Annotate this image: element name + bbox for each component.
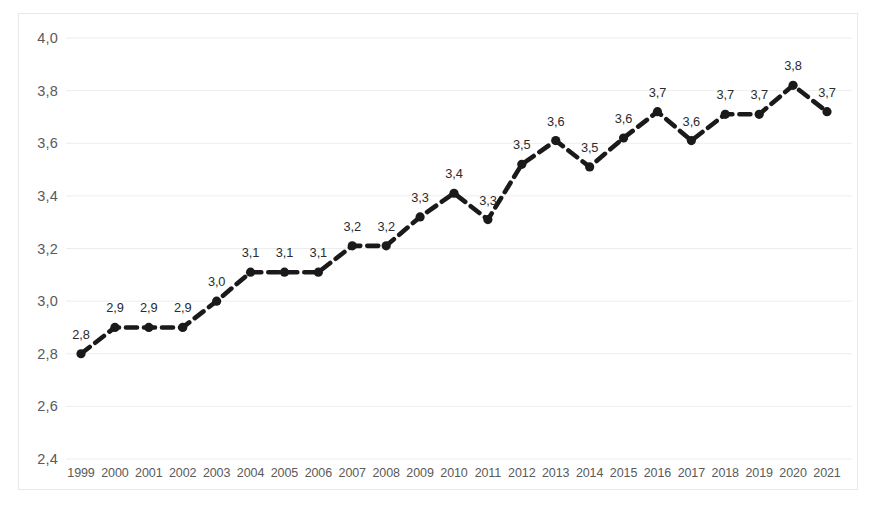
- data-point-marker[interactable]: [415, 212, 424, 221]
- data-point-marker[interactable]: [110, 323, 119, 332]
- data-point-label: 3,2: [377, 219, 395, 234]
- x-tick-label: 2006: [305, 466, 332, 480]
- x-tick-label: 2015: [610, 466, 637, 480]
- data-point-marker[interactable]: [721, 110, 730, 119]
- x-tick-label: 2013: [542, 466, 569, 480]
- data-point-marker[interactable]: [822, 107, 831, 116]
- y-tick-label: 2,4: [14, 451, 58, 467]
- x-tick-label: 2014: [576, 466, 603, 480]
- data-point-marker[interactable]: [314, 268, 323, 277]
- data-point-marker[interactable]: [212, 297, 221, 306]
- x-tick-label: 2003: [203, 466, 230, 480]
- x-tick-label: 2011: [475, 466, 501, 480]
- x-tick-label: 2018: [712, 466, 739, 480]
- x-tick-label: 2008: [372, 466, 399, 480]
- data-point-marker[interactable]: [517, 160, 526, 169]
- x-tick-label: 2001: [135, 466, 162, 480]
- data-point-label: 3,2: [344, 219, 362, 234]
- data-point-label: 3,6: [615, 111, 633, 126]
- data-point-label: 3,4: [445, 166, 463, 181]
- y-tick-label: 3,8: [14, 83, 58, 99]
- data-point-label: 3,7: [818, 85, 836, 100]
- data-point-label: 3,7: [649, 85, 667, 100]
- data-point-marker[interactable]: [76, 349, 85, 358]
- data-point-label: 3,1: [242, 245, 260, 260]
- x-tick-label: 2019: [745, 466, 772, 480]
- y-tick-label: 3,4: [14, 188, 58, 204]
- x-tick-label: 2016: [644, 466, 671, 480]
- data-point-label: 2,9: [174, 300, 192, 315]
- x-tick-label: 2012: [508, 466, 535, 480]
- data-point-label: 3,5: [513, 137, 531, 152]
- y-tick-label: 2,8: [14, 346, 58, 362]
- data-point-marker[interactable]: [348, 241, 357, 250]
- data-point-marker[interactable]: [653, 107, 662, 116]
- data-point-marker[interactable]: [449, 189, 458, 198]
- data-point-label: 3,6: [547, 114, 565, 129]
- x-tick-label: 2004: [237, 466, 264, 480]
- y-tick-label: 3,6: [14, 135, 58, 151]
- data-point-label: 3,3: [411, 190, 429, 205]
- data-point-marker[interactable]: [755, 110, 764, 119]
- x-tick-label: 2009: [406, 466, 433, 480]
- data-point-marker[interactable]: [178, 323, 187, 332]
- data-point-marker[interactable]: [246, 268, 255, 277]
- data-point-label: 3,1: [310, 245, 328, 260]
- x-tick-label: 2000: [101, 466, 128, 480]
- x-tick-label: 1999: [67, 466, 94, 480]
- x-tick-label: 2002: [169, 466, 196, 480]
- x-tick-label: 2010: [440, 466, 467, 480]
- data-point-label: 2,8: [72, 327, 90, 342]
- x-tick-label: 2007: [339, 466, 366, 480]
- data-point-marker[interactable]: [144, 323, 153, 332]
- data-point-label: 3,7: [717, 87, 735, 102]
- y-tick-label: 3,2: [14, 241, 58, 257]
- data-point-marker[interactable]: [585, 162, 594, 171]
- data-point-label: 2,9: [106, 300, 124, 315]
- data-point-marker[interactable]: [619, 133, 628, 142]
- data-point-label: 3,0: [208, 274, 226, 289]
- data-point-marker[interactable]: [551, 136, 560, 145]
- line-chart: 2,42,62,83,03,23,43,63,84,0 199920002001…: [0, 0, 879, 510]
- data-point-marker[interactable]: [382, 241, 391, 250]
- data-point-label: 3,3: [479, 193, 497, 208]
- data-point-label: 2,9: [140, 300, 158, 315]
- data-point-label: 3,5: [581, 140, 599, 155]
- x-tick-label: 2020: [779, 466, 806, 480]
- x-tick-label: 2021: [813, 466, 840, 480]
- series-line: [81, 85, 827, 353]
- data-point-label: 3,7: [750, 87, 768, 102]
- y-tick-label: 2,6: [14, 398, 58, 414]
- data-point-marker[interactable]: [687, 136, 696, 145]
- chart-canvas: [0, 0, 879, 510]
- data-point-marker[interactable]: [788, 81, 797, 90]
- data-point-marker[interactable]: [280, 268, 289, 277]
- x-tick-label: 2005: [271, 466, 298, 480]
- data-point-label: 3,1: [276, 245, 294, 260]
- data-point-marker[interactable]: [483, 215, 492, 224]
- data-point-label: 3,8: [784, 58, 802, 73]
- x-tick-label: 2017: [678, 466, 705, 480]
- y-tick-label: 4,0: [14, 30, 58, 46]
- y-tick-label: 3,0: [14, 293, 58, 309]
- data-point-label: 3,6: [683, 114, 701, 129]
